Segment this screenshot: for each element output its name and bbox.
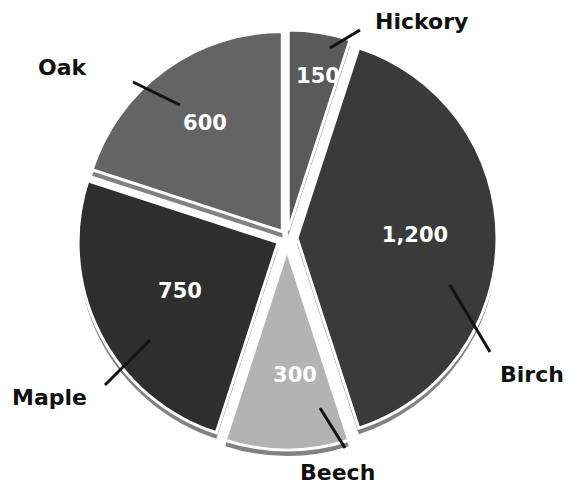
pie-chart: 150Hickory1,200Birch300Beech750Maple600O… xyxy=(0,0,572,486)
value-label-birch: 1,200 xyxy=(382,223,448,247)
value-label-maple: 750 xyxy=(158,279,202,303)
value-label-beech: 300 xyxy=(273,363,317,387)
category-label-birch: Birch xyxy=(500,362,564,387)
category-label-maple: Maple xyxy=(12,385,87,410)
value-label-hickory: 150 xyxy=(296,64,340,88)
category-label-oak: Oak xyxy=(38,55,88,80)
value-label-oak: 600 xyxy=(183,111,227,135)
category-label-hickory: Hickory xyxy=(375,9,468,34)
category-label-beech: Beech xyxy=(300,460,375,485)
